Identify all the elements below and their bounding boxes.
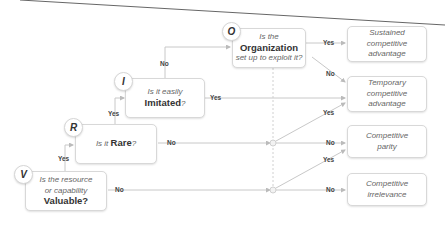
rare-bold: Rare [111,137,132,148]
v-no-label: No [115,186,124,193]
rare-question-box: Is it Rare? [75,124,157,164]
r-yes-label: Yes [108,110,119,117]
r-badge: R [64,118,83,137]
mid-yes-label: Yes [323,109,334,116]
temporary-line3: advantage [368,99,405,110]
outcome-competitive-parity: Competitive parity [347,125,427,158]
imitated-question-box: Is it easily Imitated? [125,78,205,118]
imitated-bold: Imitated [145,97,181,108]
temporary-line1: Temporary [368,78,406,89]
i-no-label: No [160,60,169,67]
parity-line2: parity [377,142,397,153]
valuable-question-box: Is the resource or capability Valuable? [25,171,107,211]
outcome-temporary-advantage: Temporary competitive advantage [347,76,427,112]
temporary-line2: competitive [367,89,407,100]
outcome-competitive-irrelevance: Competitive irrelevance [347,173,427,206]
organization-line3: set up to exploit it? [236,53,303,64]
i-badge: I [114,72,133,91]
imitated-line2: Imitated? [145,98,186,110]
rare-text: Is it Rare? [96,138,136,150]
irrelevance-line2: irrelevance [367,190,406,201]
valuable-bold: Valuable? [44,196,88,207]
mid-no-label: No [326,139,335,146]
valuable-line1: Is the resource [40,175,93,186]
rare-prefix: Is it [96,139,111,148]
rare-suffix: ? [132,139,136,148]
o-badge: O [222,22,241,41]
outcome-sustained-advantage: Sustained competitive advantage [347,26,427,62]
o-yes-label: Yes [323,39,334,46]
irrelevance-line1: Competitive [366,179,408,190]
sustained-line1: Sustained [369,28,405,39]
sustained-line3: advantage [368,49,405,60]
r-no-label: No [167,139,176,146]
o-no-label: No [326,70,335,77]
organization-bold: Organization [240,43,298,54]
low-no-label: No [326,186,335,193]
organization-question-box: Is the Organization set up to exploit it… [232,28,306,68]
imitated-suffix: ? [181,99,185,108]
low-yes-label: Yes [323,156,334,163]
v-badge: V [14,165,33,184]
sustained-line2: competitive [367,39,407,50]
v-yes-label: Yes [58,155,69,162]
parity-line1: Competitive [366,131,408,142]
i-yes-label: Yes [210,94,221,101]
